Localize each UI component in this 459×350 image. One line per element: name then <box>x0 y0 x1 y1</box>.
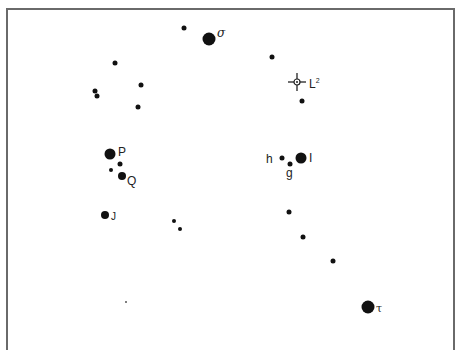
chart-frame <box>6 8 455 350</box>
label-Q: Q <box>127 175 136 187</box>
star-sigma <box>203 33 216 46</box>
star-dot <box>287 210 292 215</box>
star-dot <box>136 105 141 110</box>
star-J <box>101 211 109 219</box>
star-dot <box>178 227 182 231</box>
label-I: I <box>309 152 312 164</box>
star-dot <box>331 259 336 264</box>
label-P: P <box>118 146 126 158</box>
star-dot <box>301 235 306 240</box>
label-L: L <box>309 77 316 91</box>
label-L2: L2 <box>309 78 320 90</box>
crosshair-marker-icon <box>287 72 307 92</box>
star-tau <box>362 301 375 314</box>
star-P <box>105 149 116 160</box>
label-h: h <box>266 153 273 165</box>
star-I <box>296 153 307 164</box>
label-L-superscript: 2 <box>316 77 320 84</box>
label-g: g <box>286 167 293 179</box>
star-dot <box>109 168 113 172</box>
star-h <box>280 156 285 161</box>
star-dot <box>118 162 123 167</box>
star-faint-dot <box>125 301 127 303</box>
star-dot <box>139 83 144 88</box>
label-J: J <box>111 212 116 222</box>
star-dot <box>300 99 305 104</box>
label-tau: τ <box>376 303 382 314</box>
star-dot <box>182 26 187 31</box>
star-dot <box>172 219 176 223</box>
star-dot <box>95 94 100 99</box>
star-dot <box>270 55 275 60</box>
label-sigma: σ <box>217 27 225 39</box>
star-dot <box>113 61 118 66</box>
star-Q <box>118 172 126 180</box>
